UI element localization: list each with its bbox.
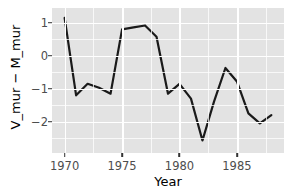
gridline-minor-horizontal (52, 138, 284, 139)
chart-container: V_mur − M_mur 10−1−2 1970197519801985 Ye… (0, 0, 294, 193)
x-axis-tick-label: 1985 (222, 159, 251, 173)
x-axis-tick-mark (179, 153, 181, 157)
y-axis-tick-labels: 10−1−2 (14, 0, 48, 193)
gridline-minor-vertical (151, 8, 152, 153)
plot-panel (52, 8, 284, 153)
gridline-minor-horizontal (52, 105, 284, 106)
x-axis-tick-mark (121, 153, 123, 157)
data-series-line (52, 8, 284, 153)
gridline-major-vertical (65, 8, 67, 153)
gridline-minor-vertical (93, 8, 94, 153)
x-axis-tick-mark (64, 153, 66, 157)
gridline-major-vertical (237, 8, 239, 153)
gridline-minor-vertical (266, 8, 267, 153)
x-axis-tick-label: 1980 (165, 159, 194, 173)
y-axis-tick-label: 0 (12, 49, 48, 63)
gridline-minor-horizontal (52, 39, 284, 40)
gridline-minor-vertical (208, 8, 209, 153)
gridline-major-horizontal (52, 23, 284, 25)
gridline-major-vertical (179, 8, 181, 153)
y-axis-tick-label: −2 (12, 115, 48, 129)
x-axis-tick-label: 1975 (107, 159, 136, 173)
gridline-minor-horizontal (52, 72, 284, 73)
gridline-major-horizontal (52, 122, 284, 124)
x-axis-tick-labels: 1970197519801985 (52, 159, 284, 175)
y-axis-tick-label: −1 (12, 82, 48, 96)
gridline-major-vertical (122, 8, 124, 153)
gridline-major-horizontal (52, 89, 284, 91)
x-axis-title: Year (52, 174, 284, 189)
y-axis-tick-label: 1 (12, 16, 48, 30)
x-axis-tick-mark (236, 153, 238, 157)
gridline-major-horizontal (52, 56, 284, 58)
x-axis-tick-label: 1970 (50, 159, 79, 173)
x-axis-tick-marks (52, 153, 284, 158)
